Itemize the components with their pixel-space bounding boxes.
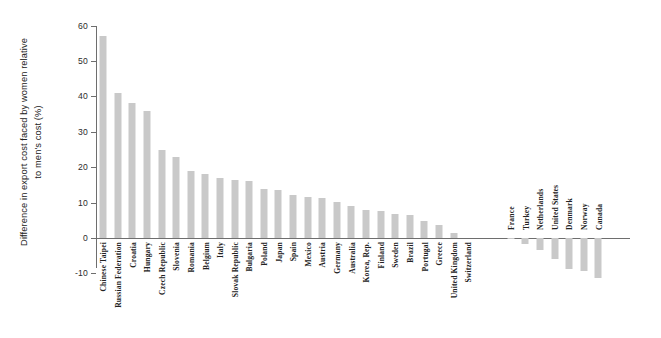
bar <box>304 197 311 238</box>
x-axis-label: Switzerland <box>464 242 473 282</box>
x-axis-label: Belgium <box>201 242 210 270</box>
bar <box>158 150 165 238</box>
x-axis-label: Germany <box>332 242 341 274</box>
x-axis-label: United Kingdom <box>449 242 458 298</box>
x-axis-label: Hungary <box>143 242 152 272</box>
y-axis-title: Difference in export cost faced by women… <box>18 37 50 247</box>
bar-slot <box>359 18 374 274</box>
bar <box>217 178 224 238</box>
bar <box>260 189 267 238</box>
bar-slot <box>446 18 461 274</box>
x-axis-label: Austria <box>318 242 327 268</box>
x-axis-label: Australia <box>347 242 356 274</box>
bar <box>333 202 340 238</box>
x-axis-label: Czech Republic <box>157 242 166 295</box>
bar <box>100 36 107 238</box>
bar <box>144 111 151 239</box>
bar-slot <box>227 18 242 274</box>
bar-slot <box>198 18 213 274</box>
bar <box>275 190 282 238</box>
y-tick-label: -10 <box>75 268 88 278</box>
bar-slot <box>169 18 184 274</box>
x-axis-label: Sweden <box>391 242 400 268</box>
bar <box>377 211 384 238</box>
bar-slot <box>330 18 345 274</box>
bar <box>537 238 544 250</box>
bar <box>348 206 355 238</box>
bar-slot <box>547 18 562 274</box>
y-tick-label: 20 <box>78 162 88 172</box>
bar-slot <box>96 18 111 274</box>
bar <box>551 238 558 259</box>
x-axis-label: United States <box>550 185 559 230</box>
y-tick-label: 10 <box>78 198 88 208</box>
y-tick-label: 0 <box>83 233 88 243</box>
x-axis-label: Canada <box>594 204 603 230</box>
bar <box>246 181 253 238</box>
bar-slot <box>213 18 228 274</box>
y-tick-label: 50 <box>78 56 88 66</box>
bar <box>114 93 121 238</box>
x-axis-label: Slovenia <box>172 242 181 271</box>
x-axis-label: Spain <box>289 242 298 261</box>
bar-slot <box>591 18 606 274</box>
bar-slot <box>562 18 577 274</box>
bar <box>406 215 413 238</box>
bar-slot <box>504 18 519 274</box>
bar-slot <box>140 18 155 274</box>
y-tick-label: 30 <box>78 127 88 137</box>
x-axis-label: Japan <box>274 242 283 263</box>
bar <box>187 171 194 238</box>
bar <box>319 198 326 238</box>
x-axis-label: Italy <box>216 242 225 258</box>
x-axis-label: Greece <box>435 242 444 266</box>
bar-slot <box>257 18 272 274</box>
x-axis-label: Chinese Taipei <box>99 242 108 292</box>
bar <box>290 195 297 238</box>
bar <box>507 238 514 239</box>
bar <box>231 180 238 238</box>
y-tick-label: 40 <box>78 91 88 101</box>
bar-slot <box>373 18 388 274</box>
x-axis-label: Mexico <box>303 242 312 267</box>
bar-slot <box>417 18 432 274</box>
x-axis-label: Portugal <box>420 242 429 271</box>
bar-slot <box>432 18 447 274</box>
bar-slot <box>154 18 169 274</box>
bar-chart: Difference in export cost faced by women… <box>0 0 661 338</box>
bar-slot <box>242 18 257 274</box>
bar-slot <box>577 18 592 274</box>
x-axis-label: Slovak Republic <box>230 242 239 297</box>
x-axis-label: Norway <box>579 203 588 230</box>
bar-slot <box>315 18 330 274</box>
bar <box>595 238 602 278</box>
bar <box>566 238 573 269</box>
bar-slot <box>388 18 403 274</box>
bar <box>392 214 399 238</box>
bar-slot <box>286 18 301 274</box>
x-axis-label: Turkey <box>521 206 530 230</box>
bar <box>421 221 428 238</box>
x-axis-label: Korea, Rep. <box>362 242 371 283</box>
x-axis-label: Poland <box>259 242 268 266</box>
x-axis-label: Finland <box>376 242 385 268</box>
bar-slot <box>271 18 286 274</box>
bar <box>173 157 180 238</box>
bar-slot <box>461 18 476 274</box>
x-axis-label: Denmark <box>565 198 574 230</box>
bar-slot <box>111 18 126 274</box>
bar-slot <box>518 18 533 274</box>
x-axis-label: Brazil <box>405 242 414 263</box>
bar <box>202 174 209 238</box>
x-axis-label: Romania <box>186 242 195 273</box>
x-axis-label: Russian Federation <box>113 242 122 308</box>
x-axis-label: Croatia <box>128 242 137 268</box>
bar <box>580 238 587 271</box>
bar-slot <box>403 18 418 274</box>
bar-slot <box>533 18 548 274</box>
x-axis-label: France <box>506 206 515 230</box>
bar-slot <box>125 18 140 274</box>
x-axis-label: Netherlands <box>536 189 545 230</box>
bar-slot <box>300 18 315 274</box>
bar <box>363 210 370 238</box>
